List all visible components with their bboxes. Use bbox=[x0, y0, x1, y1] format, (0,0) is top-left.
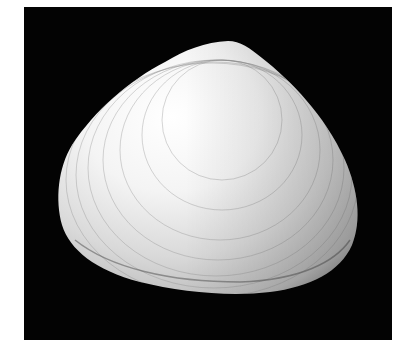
shell bbox=[0, 0, 410, 358]
clam-shell-photo bbox=[0, 0, 410, 358]
